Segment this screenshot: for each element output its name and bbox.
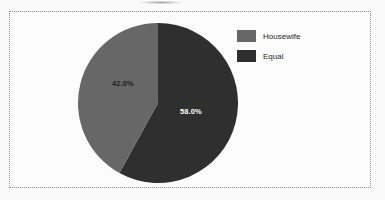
legend-item-housewife[interactable]: Housewife — [237, 26, 357, 46]
chart-screenshot: 42.0% 58.0% Housewife Equal — [0, 0, 385, 200]
legend-swatch-housewife — [237, 30, 256, 42]
legend-label-equal: Equal — [263, 52, 283, 61]
top-edge-artifact — [140, 1, 182, 4]
chart-frame: 42.0% 58.0% Housewife Equal — [9, 11, 371, 188]
legend-item-equal[interactable]: Equal — [237, 46, 357, 66]
pie-svg — [78, 23, 238, 183]
pie-chart: 42.0% 58.0% — [78, 23, 238, 183]
chart-legend: Housewife Equal — [237, 26, 357, 66]
legend-label-housewife: Housewife — [263, 32, 300, 41]
plot-area: 42.0% 58.0% Housewife Equal — [10, 12, 370, 187]
pie-label-equal: 58.0% — [180, 107, 202, 116]
legend-swatch-equal — [237, 50, 256, 62]
pie-label-housewife: 42.0% — [112, 79, 134, 88]
